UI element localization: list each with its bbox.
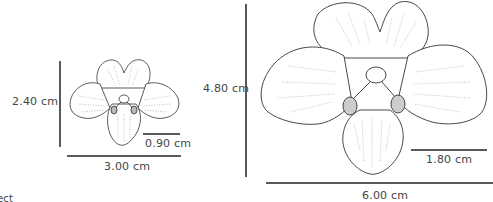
large-orchid-illustration [261,2,487,175]
large-width-label: 6.00 cm [362,189,408,202]
small-width-label: 3.00 cm [104,160,150,173]
small-height-label: 2.40 cm [12,95,58,108]
cropped-caption: ect [0,193,13,202]
large-scale-label: 1.80 cm [426,153,472,166]
small-scale-label: 0.90 cm [145,137,191,150]
small-orchid-illustration [70,60,179,146]
large-height-label: 4.80 cm [203,82,249,95]
orchid-scale-diagram [0,0,493,202]
